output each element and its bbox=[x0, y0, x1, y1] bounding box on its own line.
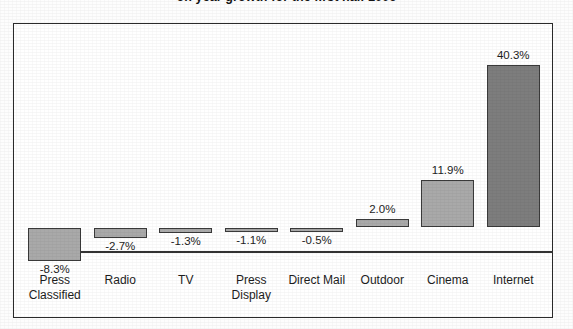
bar-group-internet: 40.3%Internet bbox=[481, 23, 547, 318]
x-axis-tick-label: TV bbox=[153, 273, 219, 288]
category-label: TV bbox=[178, 273, 193, 287]
chart-page: on year growth for the first half 2006 -… bbox=[0, 0, 573, 329]
bar[interactable] bbox=[94, 228, 147, 239]
category-label: Radio bbox=[105, 273, 136, 287]
bar-group-outdoor: 2.0%Outdoor bbox=[350, 23, 416, 318]
chart-title: on year growth for the first half 2006 bbox=[0, 0, 573, 4]
bar[interactable] bbox=[487, 65, 540, 227]
bar[interactable] bbox=[290, 228, 343, 232]
chart-title-clipped: on year growth for the first half 2006 bbox=[0, 0, 573, 9]
bar-value-label: 40.3% bbox=[481, 49, 547, 61]
x-axis-tick-label: Internet bbox=[481, 273, 547, 288]
bar-group-press-display: -1.1%PressDisplay bbox=[219, 23, 285, 318]
bar-value-label: -1.3% bbox=[153, 235, 219, 247]
bar-group-tv: -1.3%TV bbox=[153, 23, 219, 318]
x-axis-tick-label: PressClassified bbox=[22, 273, 88, 302]
bar-group-press-classified: -8.3%PressClassified bbox=[22, 23, 88, 318]
category-label: Press bbox=[39, 273, 70, 287]
category-label: Internet bbox=[493, 273, 534, 287]
category-label: Direct Mail bbox=[288, 273, 345, 287]
bar-value-label: 2.0% bbox=[350, 203, 416, 215]
category-label: Press bbox=[236, 273, 267, 287]
bar-group-direct-mail: -0.5%Direct Mail bbox=[284, 23, 350, 318]
bar[interactable] bbox=[356, 219, 409, 227]
category-label: Outdoor bbox=[361, 273, 404, 287]
bar-value-label: -0.5% bbox=[284, 234, 350, 246]
bar-value-label: -1.1% bbox=[219, 234, 285, 246]
bar-group-radio: -2.7%Radio bbox=[88, 23, 154, 318]
bar[interactable] bbox=[421, 180, 474, 228]
bar[interactable] bbox=[225, 228, 278, 232]
x-axis-tick-label: Direct Mail bbox=[284, 273, 350, 288]
bar-value-label: -2.7% bbox=[88, 240, 154, 252]
x-axis-tick-label: Cinema bbox=[415, 273, 481, 288]
x-axis-tick-label: Radio bbox=[88, 273, 154, 288]
bar[interactable] bbox=[28, 228, 81, 261]
bar-group-cinema: 11.9%Cinema bbox=[415, 23, 481, 318]
category-label-line2: Classified bbox=[22, 288, 88, 303]
bar-value-label: 11.9% bbox=[415, 164, 481, 176]
bar-series: -8.3%PressClassified-2.7%Radio-1.3%TV-1.… bbox=[13, 23, 553, 318]
x-axis-tick-label: Outdoor bbox=[350, 273, 416, 288]
x-axis-tick-label: PressDisplay bbox=[219, 273, 285, 302]
bar[interactable] bbox=[159, 228, 212, 233]
category-label: Cinema bbox=[427, 273, 468, 287]
category-label-line2: Display bbox=[219, 288, 285, 303]
